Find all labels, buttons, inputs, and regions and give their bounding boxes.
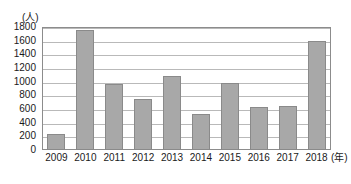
y-axis-tick-label: 1600 [14, 36, 36, 46]
bar-chart: (人) 020040060080010001200140016001800 20… [0, 0, 351, 184]
x-axis-tick-label: 2012 [132, 152, 154, 164]
y-axis-tick-labels: 020040060080010001200140016001800 [0, 27, 40, 150]
y-axis-tick-label: 200 [19, 131, 36, 141]
bar [192, 114, 210, 150]
y-axis-tick-label: 0 [30, 145, 36, 155]
y-axis-tick-label: 600 [19, 104, 36, 114]
x-axis-tick-labels: 2009201020112012201320142015201620172018 [42, 152, 331, 168]
x-axis-tick-label: 2017 [277, 152, 299, 164]
x-axis-tick-label: 2016 [248, 152, 270, 164]
y-axis-tick-label: 1800 [14, 22, 36, 32]
bar [163, 76, 181, 150]
bar [250, 107, 268, 150]
x-axis-tick-label: 2014 [190, 152, 212, 164]
bar [105, 84, 123, 150]
x-axis-unit-label: (年) [331, 152, 348, 164]
x-axis-tick-label: 2013 [161, 152, 183, 164]
bar [76, 30, 94, 150]
bar [47, 134, 65, 150]
y-axis-tick-label: 800 [19, 90, 36, 100]
bar [134, 99, 152, 150]
bar [279, 106, 297, 150]
bar-series [42, 27, 331, 150]
y-axis-tick-label: 1400 [14, 49, 36, 59]
x-axis-tick-label: 2015 [219, 152, 241, 164]
x-axis-tick-label: 2011 [103, 152, 125, 164]
bar [308, 41, 326, 150]
y-axis-tick-label: 400 [19, 118, 36, 128]
y-axis-tick-label: 1200 [14, 63, 36, 73]
x-axis-tick-label: 2009 [45, 152, 67, 164]
x-axis-tick-label: 2018 [305, 152, 327, 164]
x-axis-tick-label: 2010 [74, 152, 96, 164]
y-axis-tick-label: 1000 [14, 77, 36, 87]
bar [221, 83, 239, 150]
